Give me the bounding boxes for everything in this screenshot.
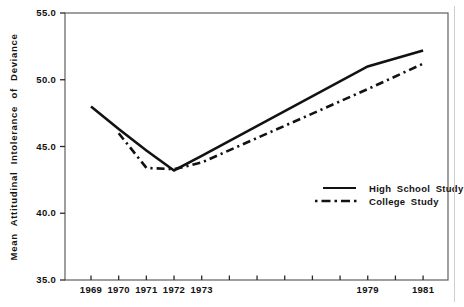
legend-line-dash-dot-icon — [313, 198, 359, 204]
plot-frame — [65, 13, 448, 280]
x-tick-label: 1969 — [80, 284, 102, 295]
x-tick-label: 1973 — [191, 284, 213, 295]
y-tick-label: 55.0 — [36, 7, 56, 18]
legend-line-solid-icon — [313, 187, 359, 190]
legend-entry-college: College Study — [313, 195, 464, 207]
y-tick-label: 45.0 — [36, 141, 56, 152]
series-line-high-school-study — [91, 50, 423, 170]
legend: High School Study College Study — [313, 182, 464, 207]
legend-label-high-school: High School Study — [369, 183, 464, 194]
y-axis-title: Mean Attitudinal Intolerance of Deviance — [8, 34, 19, 261]
legend-label-college: College Study — [369, 196, 439, 207]
y-tick-label: 50.0 — [36, 74, 56, 85]
scan-edge-artifact — [454, 6, 455, 302]
legend-entry-high-school: High School Study — [313, 182, 464, 194]
series-line-college-study — [119, 64, 423, 170]
y-tick-label: 40.0 — [36, 207, 56, 218]
x-tick-label: 1981 — [412, 284, 435, 295]
x-tick-label: 1979 — [357, 284, 379, 295]
x-tick-label: 1971 — [135, 284, 158, 295]
y-tick-label: 35.0 — [36, 274, 56, 285]
x-tick-label: 1970 — [108, 284, 130, 295]
x-tick-label: 1972 — [163, 284, 185, 295]
